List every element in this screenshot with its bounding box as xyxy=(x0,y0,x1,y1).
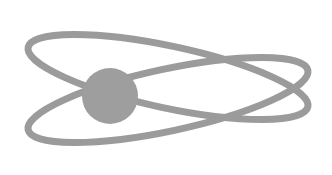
logo-canvas: Atom logo: two crossing elliptical orbit… xyxy=(0,0,332,175)
nucleus-circle xyxy=(82,68,138,124)
background-rect xyxy=(0,0,332,175)
atom-orbit-logo: Atom logo: two crossing elliptical orbit… xyxy=(0,0,332,175)
